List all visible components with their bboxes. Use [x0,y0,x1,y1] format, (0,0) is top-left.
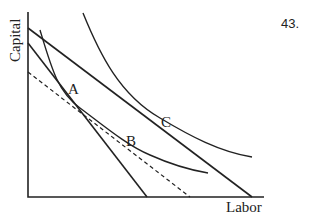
point-a-label: A [68,81,79,97]
point-b-label: B [126,133,136,149]
y-axis-label: Capital [7,19,23,62]
x-axis-label: Labor [226,199,262,215]
inner-isocost-line [28,43,147,197]
higher-isoquant [83,13,252,157]
dashed-isocost-line [28,72,190,197]
outer-isocost-line [28,28,252,197]
problem-number: 43. [281,16,299,31]
isoquant-isocost-diagram: A B C Labor Capital 43. [0,0,312,221]
point-c-label: C [161,114,171,130]
lower-isoquant [40,30,208,173]
axes [28,12,264,197]
